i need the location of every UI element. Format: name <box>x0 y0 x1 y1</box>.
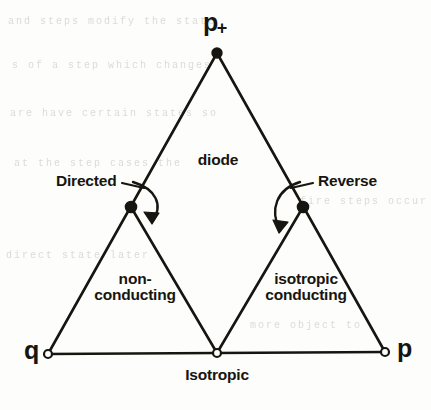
callout-label-reverse: Reverse <box>318 172 377 190</box>
vertex-marker-p <box>381 348 389 356</box>
vertex-label-q: q <box>24 336 39 365</box>
region-label-non-conducting-line2: conducting <box>94 287 176 303</box>
region-label-isotropic-conducting: isotropic conducting <box>265 271 347 304</box>
vertex-marker-q <box>44 350 52 358</box>
vertex-label-p: p <box>397 334 412 363</box>
arrowhead-directed <box>144 212 159 224</box>
region-label-non-conducting: non- conducting <box>94 271 176 304</box>
diagram-canvas <box>0 0 431 410</box>
region-label-diode: diode <box>198 152 238 168</box>
arrowhead-reverse <box>273 220 288 233</box>
phase-diagram-figure: and steps modify the state s of a step w… <box>0 0 431 410</box>
vertex-marker-p-plus <box>212 48 222 58</box>
region-label-isotropic-conducting-line2: conducting <box>265 287 347 303</box>
region-label-isotropic-conducting-line1: isotropic <box>265 271 347 287</box>
vertex-marker-directed <box>125 201 136 212</box>
vertex-label-p-plus-base: p <box>203 8 218 36</box>
vertex-marker-reverse <box>297 201 308 212</box>
vertex-label-isotropic: Isotropic <box>185 366 249 384</box>
vertex-marker-isotropic <box>213 349 221 357</box>
callout-label-directed: Directed <box>56 172 116 190</box>
vertex-label-p-plus-subscript: + <box>217 18 227 38</box>
region-label-non-conducting-line1: non- <box>94 271 176 287</box>
vertex-label-p-plus: p+ <box>203 8 228 37</box>
